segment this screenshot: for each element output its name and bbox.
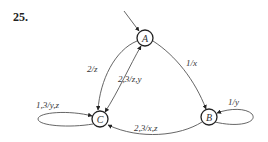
state-node-b: B [201,109,217,125]
edge-a-to-b [153,41,206,109]
state-node-c: C [92,111,108,127]
start-arrow [124,11,139,31]
edge-label-a-to-c: 2/z [87,64,98,74]
state-node-a: A [137,30,153,46]
edge-b-self-loop [215,109,253,124]
state-label-a: A [141,33,149,44]
edge-label-b-self: 1/y [228,97,239,107]
edge-label-c-self: 1,3/y,z [36,100,59,110]
edge-label-c-to-a: 2,3/z,y [118,74,142,84]
state-label-b: B [206,112,212,123]
state-label-c: C [97,114,104,125]
edge-c-self-loop [38,112,93,126]
state-diagram: 2/z 2,3/z,y 1/x 1/y 1,3/y,z 2,3/x,z A B … [0,0,268,142]
edge-label-b-to-c: 2,3/x,z [134,123,158,133]
edge-label-a-to-b: 1/x [186,58,197,68]
